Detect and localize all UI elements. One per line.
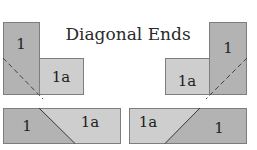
piece-1a-label: 1a [139,113,158,131]
piece-1a-label: 1a [52,68,71,86]
piece-1-label: 1 [214,119,224,137]
piece-1a-label: 1a [178,72,197,90]
piece-1-label: 1 [22,117,32,135]
piece-1 [210,23,247,95]
piece-1-label: 1 [223,39,233,57]
piece-1a-label: 1a [81,113,100,131]
diagram-title: Diagonal Ends [65,24,190,44]
bottom-right-diagram: 1a 1 [130,108,247,144]
piece-1-label: 1 [16,35,26,53]
piece-1 [4,23,40,95]
bottom-left-diagram: 1 1a [4,108,121,144]
diagonal-ends-diagram: Diagonal Ends 1 1a 1 1a 1 1a 1a 1 [0,0,257,150]
